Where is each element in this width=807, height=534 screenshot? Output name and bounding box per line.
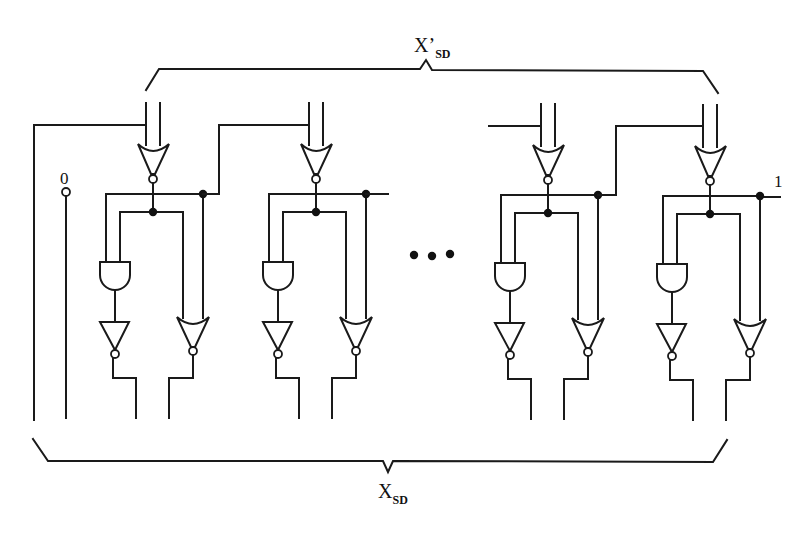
constant-zero-label: 0	[60, 169, 69, 188]
constant-one-label: 1	[774, 172, 783, 191]
circuit-diagram: X’SD XSD 0 1	[0, 0, 807, 534]
bottom-bus-brace	[33, 439, 727, 472]
cell-3	[495, 104, 703, 419]
bottom-bus-label: XSD	[378, 480, 408, 507]
cell-2	[263, 103, 388, 418]
constant-zero-terminal	[62, 188, 70, 196]
top-bus-brace	[146, 60, 718, 93]
cell-4	[657, 105, 766, 420]
cell-1	[100, 103, 309, 418]
ellipsis-dots	[410, 250, 454, 260]
top-bus-label: X’SD	[414, 34, 451, 61]
